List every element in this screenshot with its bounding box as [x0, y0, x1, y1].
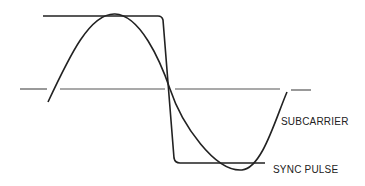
baseline-axis [20, 89, 311, 90]
subcarrier-label: SUBCARRIER [281, 116, 349, 127]
waveform-diagram: SUBCARRIER SYNC PULSE [0, 0, 365, 186]
waveform-svg [0, 0, 365, 186]
subcarrier-waveform [48, 14, 287, 170]
sync-pulse-label: SYNC PULSE [273, 164, 338, 175]
